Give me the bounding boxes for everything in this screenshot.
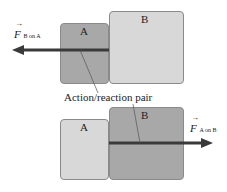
force-subscript: B on A <box>23 33 40 39</box>
force-symbol: F <box>14 28 21 40</box>
leader-line-bottom <box>133 104 140 143</box>
force-arrow-a-on-b <box>109 138 213 148</box>
force-subscript: A on B <box>199 127 216 133</box>
force-symbol: F <box>190 122 197 134</box>
leader-line-top <box>80 50 98 93</box>
action-reaction-caption: Action/reaction pair <box>64 91 152 103</box>
force-label-a-on-b: F → A on B <box>190 122 217 134</box>
force-label-b-on-a: F → B on A <box>14 28 41 40</box>
force-arrow-b-on-a <box>12 45 109 55</box>
vector-arrow-icon: → <box>191 113 199 122</box>
vector-arrow-icon: → <box>15 19 23 28</box>
